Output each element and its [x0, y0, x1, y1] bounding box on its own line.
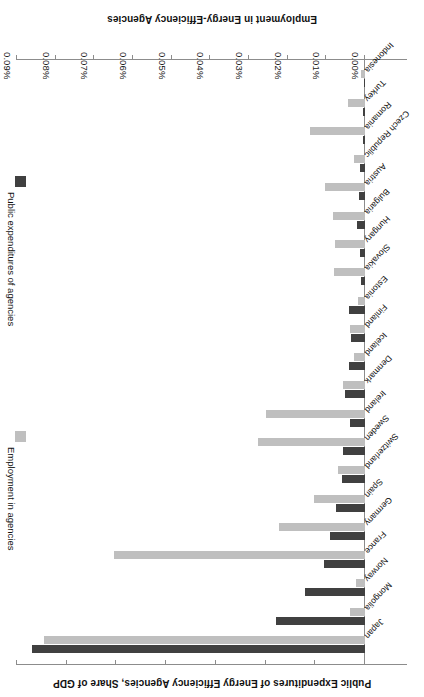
category-label: Mongolia	[363, 580, 394, 613]
bar-group	[17, 569, 365, 597]
bar-employment	[333, 212, 365, 220]
bar-group	[17, 117, 365, 145]
bar-employment	[358, 297, 365, 305]
bar-expenditure	[324, 560, 365, 568]
legend-label: Employment in agencies	[6, 447, 17, 551]
bar-employment	[356, 579, 365, 587]
legend-swatch	[15, 431, 26, 442]
bar-expenditure	[351, 334, 365, 342]
category-label: Denmark	[363, 354, 394, 387]
bar-expenditure	[342, 475, 365, 483]
bar-expenditure	[349, 362, 365, 370]
bar-group	[17, 286, 365, 314]
bar-group	[17, 371, 365, 399]
category-label: Japan	[363, 617, 386, 641]
category-label: Spain	[363, 476, 385, 499]
bar-employment	[361, 70, 365, 78]
bar-expenditure	[32, 645, 365, 653]
bar-group	[17, 484, 365, 512]
bar-group	[17, 230, 365, 258]
bar-employment	[350, 608, 365, 616]
bar-expenditure	[350, 419, 365, 427]
bar-employment	[348, 99, 365, 107]
bar-employment	[354, 155, 365, 163]
category-label: Turkey	[363, 78, 388, 104]
bar-expenditure	[345, 390, 365, 398]
bar-group	[17, 597, 365, 625]
bar-group	[17, 315, 365, 343]
bar-expenditure	[360, 249, 365, 257]
category-label: Hungary	[363, 214, 393, 245]
category-label: Indonesia	[363, 41, 396, 75]
bar-employment	[343, 381, 365, 389]
bar-group	[17, 88, 365, 116]
bar-employment	[325, 183, 365, 191]
bar-expenditure	[363, 108, 365, 116]
legend-swatch	[15, 176, 26, 187]
bar-expenditure	[360, 164, 365, 172]
bar-expenditure	[359, 192, 365, 200]
bar-expenditure	[349, 306, 365, 314]
bar-expenditure	[357, 221, 365, 229]
bar-employment	[350, 325, 365, 333]
category-label: France	[363, 530, 389, 557]
bar-group	[17, 626, 365, 654]
bar-expenditure	[276, 617, 365, 625]
bar-group	[17, 145, 365, 173]
bar-group	[17, 173, 365, 201]
category-label: Slovakia	[363, 242, 393, 273]
category-label: Austria	[363, 162, 389, 189]
bar-employment	[354, 353, 365, 361]
bar-group	[17, 343, 365, 371]
bar-expenditure	[305, 588, 365, 596]
bar-employment	[334, 268, 365, 276]
bar-group	[17, 201, 365, 229]
bar-group	[17, 513, 365, 541]
bar-group	[17, 60, 365, 88]
bar-group	[17, 258, 365, 286]
bar-employment	[258, 438, 365, 446]
bar-employment	[279, 523, 365, 531]
bar-group	[17, 399, 365, 427]
bar-employment	[266, 410, 365, 418]
bar-group	[17, 541, 365, 569]
category-label: Estonia	[363, 274, 390, 302]
bar-employment	[310, 127, 365, 135]
chart-figure: Public Expenditures of Energy Efficiency…	[0, 0, 424, 697]
bar-employment	[44, 636, 365, 644]
category-label: Ireland	[363, 388, 388, 414]
bar-expenditure	[330, 532, 365, 540]
bar-expenditure	[343, 447, 365, 455]
bar-expenditure	[363, 136, 365, 144]
bar-group	[17, 456, 365, 484]
category-label: Finland	[363, 302, 390, 330]
bar-expenditure	[361, 277, 365, 285]
bar-expenditure	[364, 79, 365, 87]
bar-expenditure	[336, 504, 365, 512]
bar-employment	[335, 240, 365, 248]
bar-series-area: JapanMongoliaNorwayFranceGermanySpainSwi…	[0, 0, 424, 697]
category-label: Bulgaria	[363, 187, 392, 217]
legend-label: Public expenditures of agencies	[6, 192, 17, 326]
bar-employment	[338, 466, 365, 474]
bar-employment	[114, 551, 365, 559]
category-label: Germany	[363, 495, 395, 528]
bar-group	[17, 428, 365, 456]
bar-employment	[314, 495, 365, 503]
